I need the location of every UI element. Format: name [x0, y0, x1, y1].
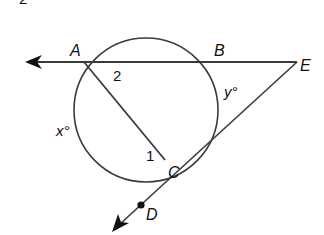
angle-1-label: 1: [146, 147, 154, 164]
label-A: A: [69, 42, 81, 59]
arc-x-label: x°: [55, 122, 70, 139]
label-E: E: [300, 57, 311, 74]
arc-y-label: y°: [223, 83, 238, 100]
tangent-line-EC: [120, 62, 297, 224]
chord-AC: [84, 62, 165, 160]
label-C: C: [168, 164, 180, 181]
top-fragment-text: 2: [19, 0, 27, 7]
point-D-dot: [137, 201, 144, 208]
angle-2-label: 2: [113, 67, 121, 84]
figure-canvas: 2 A B E C D 2 1 x° y°: [0, 0, 324, 235]
geometry-figure: 2 A B E C D 2 1 x° y°: [0, 0, 324, 235]
label-D: D: [146, 206, 158, 223]
label-B: B: [214, 42, 225, 59]
arrowhead-down-left-icon: [112, 214, 129, 232]
